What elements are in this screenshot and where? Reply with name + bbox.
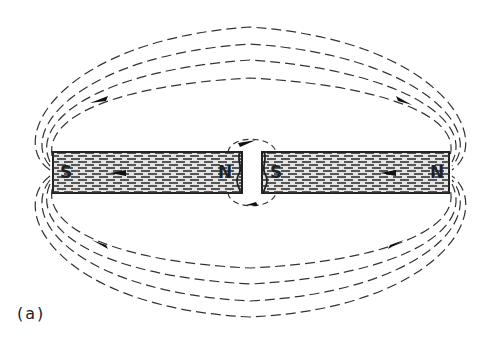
arrow-icon-gap-top: [238, 140, 256, 147]
arrow-icon-upper-right: [396, 96, 412, 105]
right-magnet-s-pole-label: S: [270, 164, 282, 181]
field-line-upper-1: [35, 27, 466, 170]
lower-field-lines: [35, 176, 466, 317]
right-magnet-n-pole-label: N: [430, 164, 444, 181]
figure-caption: (a): [17, 304, 45, 323]
left-magnet: [53, 152, 242, 193]
magnetic-field-diagram: [0, 0, 495, 343]
arrow-icon-lower-right: [388, 240, 404, 249]
field-line-lower-2: [42, 180, 460, 301]
upper-field-lines: [35, 27, 466, 170]
right-magnet: [262, 152, 449, 193]
left-magnet-s-pole-label: S: [60, 164, 72, 181]
field-line-lower-3: [47, 184, 456, 284]
field-line-upper-4: [52, 78, 452, 156]
field-line-lower-1: [35, 176, 466, 317]
field-line-lower-4: [52, 189, 452, 268]
left-magnet-n-pole-label: N: [218, 164, 232, 181]
